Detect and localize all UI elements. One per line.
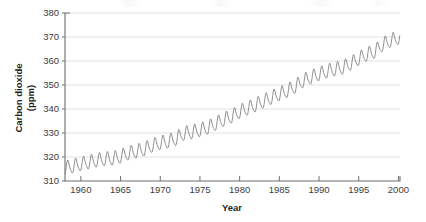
- figure-container: 310320330340350360370380 196019651970197…: [0, 0, 426, 222]
- axis-lines-group: [62, 13, 400, 181]
- y-tick-labels-group: 310320330340350360370380: [43, 7, 59, 186]
- x-tick-marks-group: [81, 176, 399, 181]
- x-tick-label: 1965: [110, 184, 131, 195]
- x-tick-label: 1995: [348, 184, 369, 195]
- co2-series-line: [65, 32, 400, 174]
- y-axis-title-line-2: (ppm): [25, 85, 36, 111]
- co2-vs-year-line-chart: 310320330340350360370380 196019651970197…: [0, 0, 426, 222]
- y-tick-label: 340: [43, 103, 59, 114]
- x-tick-label: 1960: [70, 184, 91, 195]
- y-tick-label: 360: [43, 55, 59, 66]
- y-tick-label: 330: [43, 127, 59, 138]
- data-series-group: [65, 32, 400, 174]
- y-axis-title: Carbon dioxide (ppm): [13, 63, 36, 132]
- x-tick-label: 2000: [388, 184, 409, 195]
- x-tick-label: 1985: [269, 184, 290, 195]
- y-tick-label: 380: [43, 7, 59, 18]
- x-tick-label: 1975: [189, 184, 210, 195]
- axis-frame-line: [65, 13, 400, 181]
- x-tick-label: 1980: [229, 184, 250, 195]
- x-axis-title: Year: [222, 202, 242, 213]
- y-tick-label: 370: [43, 31, 59, 42]
- x-tick-labels-group: 196019651970197519801985199019952000: [70, 184, 409, 195]
- x-tick-label: 1970: [150, 184, 171, 195]
- y-tick-label: 310: [43, 175, 59, 186]
- y-tick-label: 350: [43, 79, 59, 90]
- gridlines-group: [65, 13, 400, 157]
- x-tick-label: 1990: [308, 184, 329, 195]
- y-axis-title-line-1: Carbon dioxide: [13, 63, 24, 132]
- y-tick-label: 320: [43, 151, 59, 162]
